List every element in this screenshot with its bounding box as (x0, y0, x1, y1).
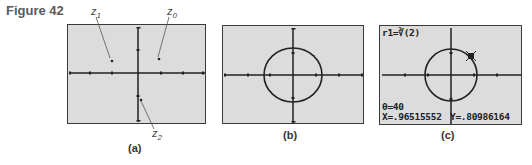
label-z1: z1 (91, 5, 101, 20)
panel-c-screen: r1=∛(2) θ=40 X=.96515552 Y=.80986164 (379, 25, 522, 125)
caption-a: (a) (128, 142, 141, 154)
panel-b-plot (223, 26, 365, 125)
equation-readout: r1=∛(2) (382, 27, 420, 38)
label-z2-sub: 2 (158, 133, 162, 142)
panel-b-screen (222, 25, 364, 124)
caption-c: (c) (441, 129, 454, 141)
caption-b: (b) (283, 129, 297, 141)
highlight-point (313, 55, 315, 57)
x-readout: X=.96515552 (382, 111, 442, 122)
y-readout: Y=.80986164 (450, 111, 510, 122)
label-z2: z2 (152, 127, 162, 142)
label-z0: z0 (167, 5, 177, 20)
label-z0-sub: 0 (173, 11, 177, 20)
label-z1-sub: 1 (97, 11, 101, 20)
